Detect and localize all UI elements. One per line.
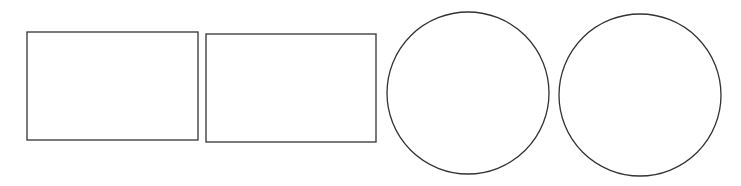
diagram-canvas [0,0,741,186]
rectangle-1 [27,32,198,140]
rectangle-2 [206,34,376,142]
circle-2 [559,14,721,176]
circle-1 [387,12,549,174]
